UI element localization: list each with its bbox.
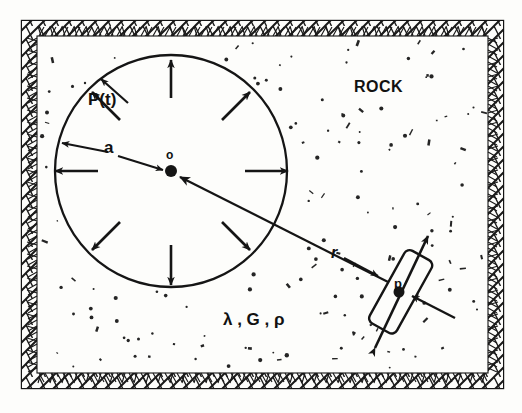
radius-label: a	[104, 138, 114, 157]
pressure-label: P(t)	[88, 90, 116, 109]
cavity-center-dot	[165, 165, 177, 177]
radial-distance-label: r	[331, 244, 338, 261]
material-properties-label: λ , G , ρ	[223, 310, 285, 329]
cavity-center-label: o	[166, 148, 173, 162]
medium-label: ROCK	[354, 78, 403, 95]
rock-cavity-diagram: P(t) a o r p ROCK λ , G , ρ	[0, 0, 522, 413]
observation-point-label: p	[394, 276, 402, 291]
figure-root: P(t) a o r p ROCK λ , G , ρ	[0, 0, 522, 413]
